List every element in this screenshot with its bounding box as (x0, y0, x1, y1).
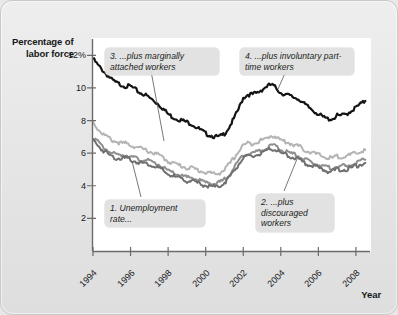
callout-marginally-attached: 3. ...plus marginally attached workers (105, 48, 219, 75)
callout-discouraged-workers: 2. ...plus discouraged workers (256, 194, 334, 232)
y-tick-label: 10 (76, 83, 86, 93)
x-tick-label: 1994 (77, 268, 98, 289)
callout-involuntary-part-time: 4. ...plus involuntary part-time workers (240, 48, 354, 75)
x-tick-label: 2002 (228, 268, 249, 289)
x-tick-label: 1998 (153, 268, 174, 289)
y-tick-label: 8 (81, 116, 86, 126)
x-tick-label: 2000 (190, 268, 211, 289)
x-axis-tick-labels: 19941996199820002002200420062008 (93, 253, 370, 297)
callout-unemployment-rate: 1. Unemployment rate... (105, 200, 205, 227)
y-tick-label: 12% (68, 50, 86, 60)
x-tick-label: 2008 (340, 268, 361, 289)
y-tick-label: 4 (81, 181, 86, 191)
x-tick-label: 1996 (115, 268, 136, 289)
y-tick-label: 2 (81, 213, 86, 223)
x-tick-label: 2006 (303, 268, 324, 289)
x-axis-title: Year (361, 289, 381, 301)
figure-panel: Percentage of labor force 12%108642 1994… (0, 0, 398, 315)
x-tick-label: 2004 (265, 268, 286, 289)
y-tick-label: 6 (81, 148, 86, 158)
y-axis-tick-labels: 12%108642 (53, 39, 86, 251)
